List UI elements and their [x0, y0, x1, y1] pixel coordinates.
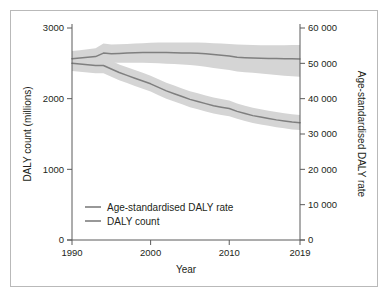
- figure-root: 0100020003000010 00020 00030 00040 00050…: [0, 0, 389, 301]
- y2-axis-title: Age-standardised DALY rate: [356, 71, 367, 198]
- left-tick-label: 3000: [43, 22, 64, 33]
- x-tick-label: 1990: [61, 247, 82, 258]
- right-tick-label: 50 000: [308, 58, 337, 69]
- x-tick-label: 2010: [219, 247, 240, 258]
- x-tick-label: 2000: [140, 247, 161, 258]
- confidence-bands: [72, 42, 300, 130]
- legend-label[interactable]: Age-standardised DALY rate: [107, 202, 234, 213]
- legend-label[interactable]: DALY count: [107, 216, 160, 227]
- x-tick-label: 2019: [289, 247, 310, 258]
- left-tick-label: 0: [59, 234, 64, 245]
- right-tick-label: 20 000: [308, 164, 337, 175]
- x-axis-title: Year: [176, 264, 197, 275]
- right-tick-label: 30 000: [308, 128, 337, 139]
- left-tick-label: 2000: [43, 93, 64, 104]
- figure-frame: 0100020003000010 00020 00030 00040 00050…: [10, 10, 378, 287]
- right-tick-label: 60 000: [308, 22, 337, 33]
- left-tick-label: 1000: [43, 164, 64, 175]
- right-tick-label: 0: [308, 234, 313, 245]
- y-axis-title: DALY count (millions): [22, 86, 33, 181]
- right-tick-label: 40 000: [308, 93, 337, 104]
- chart-canvas: 0100020003000010 00020 00030 00040 00050…: [11, 11, 377, 286]
- chart-legend[interactable]: Age-standardised DALY rateDALY count: [85, 202, 234, 227]
- right-tick-label: 10 000: [308, 199, 337, 210]
